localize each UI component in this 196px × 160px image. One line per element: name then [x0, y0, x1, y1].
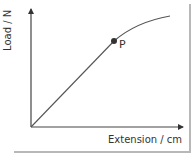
point-p-label: P	[119, 38, 126, 51]
x-axis-label: Extension / cm	[108, 134, 182, 145]
point-p-marker	[111, 38, 117, 44]
linear-segment	[31, 41, 114, 127]
y-axis-label: Load / N	[2, 8, 20, 52]
load-extension-graph: Load / N Extension / cm P	[0, 0, 196, 160]
